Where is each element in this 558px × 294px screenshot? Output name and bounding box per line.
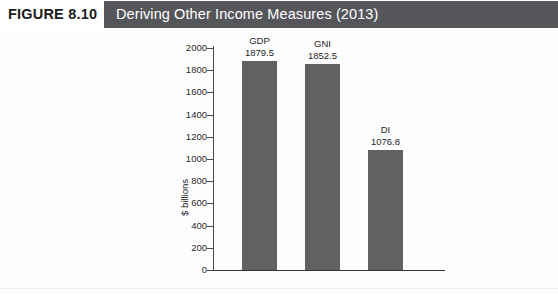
y-tick-label-wrap: 1200: [160, 132, 207, 142]
y-tick-label-wrap: 1600: [160, 87, 207, 97]
y-tick-mark: [207, 159, 214, 160]
y-tick-label-wrap: 0: [160, 265, 207, 275]
y-tick-mark: [207, 248, 214, 249]
y-tick-mark: [207, 226, 214, 227]
y-tick-label-wrap: 400: [160, 221, 207, 231]
y-tick-label: 1600: [167, 87, 207, 96]
figure-header: FIGURE 8.10 Deriving Other Income Measur…: [0, 0, 558, 29]
y-tick-label: 1000: [167, 154, 207, 163]
y-tick-label: 1200: [167, 132, 207, 141]
bar-value-label: 1852.5: [283, 50, 363, 61]
y-tick-mark: [207, 48, 214, 49]
y-tick-mark: [207, 70, 214, 71]
y-tick-mark: [207, 137, 214, 138]
y-tick-label-wrap: 1800: [160, 65, 207, 75]
y-tick-label: 0: [167, 265, 207, 274]
y-tick-label-wrap: 200: [160, 243, 207, 253]
x-axis-baseline: [213, 270, 445, 271]
bar-di[interactable]: [368, 150, 403, 270]
y-tick-mark: [207, 181, 214, 182]
bar-category-label: GNI: [283, 38, 363, 49]
y-tick-label: 200: [167, 243, 207, 252]
y-tick-mark: [207, 115, 214, 116]
y-tick-label: 2000: [167, 43, 207, 52]
bar-chart: $ billions 20001800160014001200100080060…: [0, 29, 558, 294]
y-tick-label-wrap: 2000: [160, 43, 207, 53]
y-tick-label: 400: [167, 221, 207, 230]
y-tick-mark: [207, 203, 214, 204]
figure-title-band: Deriving Other Income Measures (2013): [104, 1, 558, 28]
bar-gdp[interactable]: [242, 61, 277, 270]
y-tick-label: 1400: [167, 110, 207, 119]
y-tick-label-wrap: 800: [160, 176, 207, 186]
figure-title: Deriving Other Income Measures (2013): [116, 1, 378, 28]
y-tick-label-wrap: 1400: [160, 110, 207, 120]
bar-gni[interactable]: [305, 64, 340, 270]
bar-category-label: DI: [346, 124, 426, 135]
y-tick-label: 600: [167, 198, 207, 207]
y-tick-label: 1800: [167, 65, 207, 74]
y-tick-label: 800: [167, 176, 207, 185]
page-bottom-rule: [0, 288, 558, 289]
y-tick-mark: [207, 92, 214, 93]
y-tick-label-wrap: 1000: [160, 154, 207, 164]
bar-value-label: 1076.8: [346, 136, 426, 147]
y-tick-mark: [207, 270, 214, 271]
y-tick-label-wrap: 600: [160, 198, 207, 208]
figure-number-label: FIGURE 8.10: [8, 0, 97, 29]
